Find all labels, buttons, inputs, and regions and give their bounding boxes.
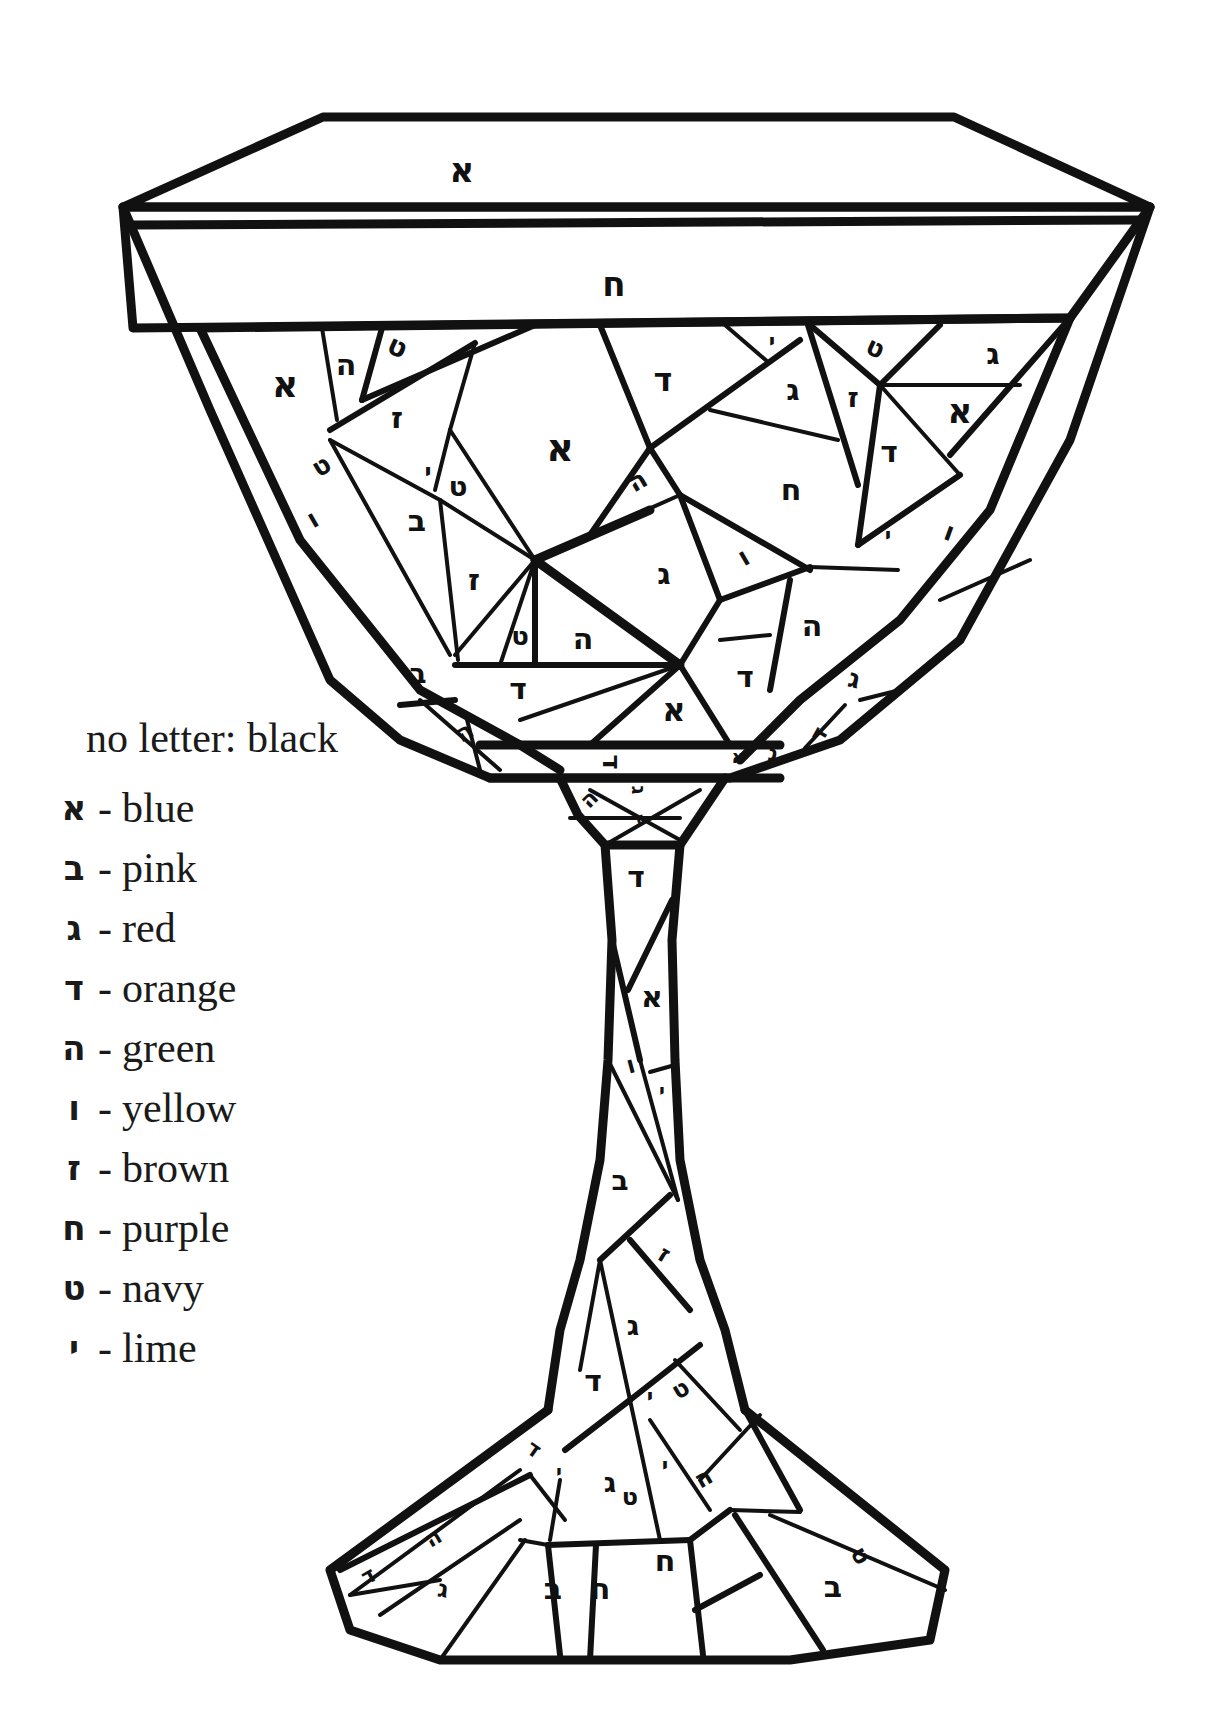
legend-title: no letter: black [86, 714, 338, 762]
region-letter-label: ג [986, 336, 999, 371]
legend-color-name: brown [122, 1144, 229, 1192]
region-letter-label: ד [521, 1435, 546, 1463]
legend-item-orange: ד - orange [56, 963, 236, 1013]
region-letter-label: ט [382, 328, 413, 366]
legend-item-red: ג - red [56, 903, 176, 953]
region-letter-label: י [885, 523, 891, 548]
legend-dash: - [98, 844, 112, 892]
region-letter-label: ג [627, 786, 651, 795]
region-letter-label: א [948, 391, 973, 431]
legend-dash: - [98, 1324, 112, 1372]
region-letter-label: ט [861, 330, 890, 365]
region-letter-label: ט [306, 448, 336, 483]
legend-dash: - [98, 1144, 112, 1192]
region-letter-label: ז [468, 562, 480, 597]
region-letter-label: י [424, 458, 431, 486]
region-letter-label: ב [824, 1569, 842, 1604]
legend-letter: ב [56, 848, 92, 888]
region-letter-label: ד [584, 1363, 602, 1398]
legend-color-name: yellow [122, 1084, 236, 1132]
legend-item-purple: ח - purple [56, 1203, 229, 1253]
legend-item-lime: י - lime [56, 1323, 197, 1373]
region-letter-label: ב [409, 657, 426, 690]
region-letter-label: ד [597, 754, 627, 769]
legend-letter: ה [56, 1028, 92, 1068]
region-letter-label: ד [509, 671, 527, 706]
legend-letter: א [56, 788, 92, 828]
legend-letter: ו [56, 1088, 92, 1128]
region-letter-label: י [659, 1079, 665, 1103]
region-letter-label: א [662, 691, 685, 729]
region-letter-label: ח [781, 472, 802, 507]
region-letter-label: ד [880, 434, 898, 469]
legend-color-name: green [122, 1024, 215, 1072]
legend-letter: ז [56, 1148, 92, 1188]
legend-dash: - [98, 1024, 112, 1072]
goblet-stem [548, 778, 745, 1430]
region-letter-label: ו [940, 516, 959, 547]
region-letter-label: ח [590, 1571, 611, 1606]
legend-dash: - [98, 1204, 112, 1252]
region-letter-label: ב [408, 503, 426, 538]
region-letter-label: ה [802, 608, 823, 643]
region-letter-label: ט [511, 621, 529, 651]
legend-color-name: orange [122, 964, 236, 1012]
legend-letter: י [56, 1328, 92, 1368]
region-letter-label: י [662, 1453, 668, 1478]
legend-dash: - [98, 1084, 112, 1132]
region-letter-label: י [505, 726, 511, 751]
region-letter-labels: אחאהטזטויטבזאדיגטזגאדהחיוגוטההבדדאגהידאג… [272, 150, 1000, 1606]
region-letter-label: ה [336, 347, 357, 382]
region-letter-label: ט [622, 1483, 638, 1511]
region-letter-label: ד [654, 361, 673, 399]
goblet-rim [123, 117, 1150, 328]
region-letter-label: ה [622, 463, 652, 498]
region-letter-label: א [450, 150, 475, 190]
region-letter-label: א [272, 364, 298, 405]
region-letter-label: ז [391, 400, 403, 435]
legend-dash: - [98, 904, 112, 952]
region-letter-label: ד [627, 859, 645, 894]
legend-letter: ד [56, 968, 92, 1008]
legend-color-name: navy [122, 1264, 204, 1312]
region-letter-label: ו [732, 541, 755, 571]
region-letter-label: ב [611, 1164, 628, 1197]
region-letter-label: ז [653, 1240, 675, 1269]
region-letter-label: ג [627, 1309, 640, 1342]
legend-item-brown: ז - brown [56, 1143, 229, 1193]
region-letter-label: א [641, 979, 663, 1014]
legend-color-name: red [122, 904, 176, 952]
region-letter-label: ב [544, 1571, 562, 1606]
legend-item-blue: א - blue [56, 783, 194, 833]
legend-item-navy: ט - navy [56, 1263, 204, 1313]
legend-item-yellow: ו - yellow [56, 1083, 236, 1133]
legend-color-name: blue [122, 784, 194, 832]
region-letter-label: י [556, 1460, 562, 1484]
legend-letter: ט [56, 1268, 92, 1308]
legend-color-name: lime [122, 1324, 197, 1372]
legend-letter: ח [56, 1208, 92, 1248]
region-letter-label: ט [845, 1541, 877, 1569]
region-letter-label: ה [573, 621, 594, 656]
region-letter-label: ח [655, 1543, 676, 1578]
legend-dash: - [98, 1264, 112, 1312]
legend-color-name: purple [122, 1204, 229, 1252]
region-letter-label: ג [657, 556, 670, 591]
legend-letter: ג [56, 908, 92, 948]
region-letter-label: ט [448, 470, 467, 503]
region-letter-label: א [546, 426, 574, 470]
region-letter-label: י [647, 1384, 653, 1409]
region-letter-label: ג [604, 1466, 617, 1499]
region-letter-label: ח [602, 264, 625, 304]
region-letter-label: י [769, 329, 775, 354]
legend-dash: - [98, 784, 112, 832]
region-letter-label: א [731, 746, 744, 767]
legend-item-pink: ב - pink [56, 843, 197, 893]
region-letter-label: ג [786, 372, 799, 407]
legend-dash: - [98, 964, 112, 1012]
region-letter-label: ו [301, 503, 324, 533]
legend-color-name: pink [122, 844, 197, 892]
region-letter-label: ז [847, 381, 858, 414]
region-letter-label: ד [736, 659, 754, 694]
legend-item-green: ה - green [56, 1023, 215, 1073]
